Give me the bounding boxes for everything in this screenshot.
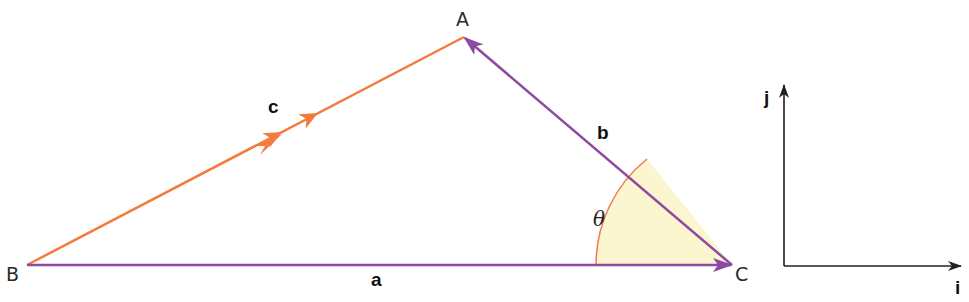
axis-label-i: i (955, 277, 960, 298)
vector-triangle-diagram: A B C c b a θ j i (0, 0, 969, 302)
vector-c (27, 37, 464, 265)
vector-label-c: c (268, 96, 279, 117)
vertex-label-a: A (456, 8, 469, 30)
vertex-label-b: B (6, 263, 19, 285)
vector-label-b: b (597, 122, 609, 143)
vertex-label-c: C (735, 263, 748, 285)
vector-c-arrowhead-1 (256, 134, 282, 155)
basis-axes: j i (763, 85, 961, 298)
angle-label-theta: θ (593, 207, 605, 231)
vector-label-a: a (371, 269, 382, 290)
axis-label-j: j (763, 87, 769, 108)
